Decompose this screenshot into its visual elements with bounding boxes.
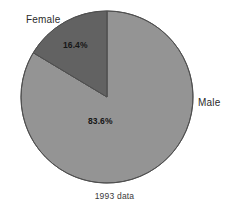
pie-chart-figure: Female Male 16.4% 83.6% 1993 data bbox=[0, 0, 229, 215]
chart-caption: 1993 data bbox=[0, 191, 229, 201]
pie-label-male: Male bbox=[198, 97, 220, 108]
pie-value-male: 83.6% bbox=[88, 116, 113, 126]
pie-chart-graphic bbox=[0, 0, 229, 215]
pie-label-female: Female bbox=[26, 14, 61, 25]
pie-value-female: 16.4% bbox=[63, 40, 88, 50]
